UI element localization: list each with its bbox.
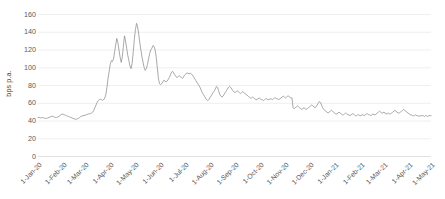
chart-container: 020406080100120140160 1-Jan-201-Feb-201-… — [0, 0, 445, 199]
y-axis-title: bps p.a. — [1, 56, 15, 116]
x-axis-ticks: 1-Jan-201-Feb-201-Mar-201-Apr-201-May-20… — [0, 0, 445, 199]
y-axis-title-text: bps p.a. — [4, 54, 13, 114]
